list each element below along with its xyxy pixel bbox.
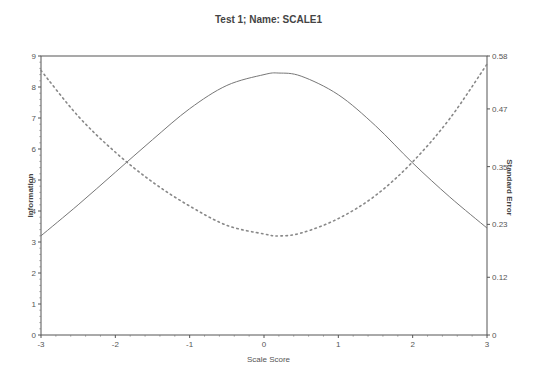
y-right-tick-label: 0.58 — [492, 52, 508, 61]
y-right-tick-label: 0.12 — [492, 273, 508, 282]
x-tick-label: 2 — [410, 340, 415, 349]
y-tick-label: 7 — [32, 114, 37, 123]
x-tick-label: 3 — [485, 340, 490, 349]
y-tick-label: 8 — [32, 83, 37, 92]
x-tick-label: 0 — [262, 340, 267, 349]
x-axis-title: Scale Score — [0, 355, 537, 364]
plot-frame — [41, 56, 487, 335]
y-axis-title: Information — [26, 173, 35, 217]
y-tick-label: 9 — [32, 52, 37, 61]
x-tick-label: -2 — [112, 340, 120, 349]
y-right-tick-label: 0.23 — [492, 220, 508, 229]
y-tick-label: 1 — [32, 300, 37, 309]
chart-plot: 012345678900.120.230.350.470.58-3-2-1012… — [0, 0, 537, 383]
y-right-tick-label: 0.47 — [492, 105, 508, 114]
y-right-axis-title: Standard Error — [505, 159, 514, 215]
y-right-tick-label: 0 — [492, 331, 497, 340]
y-tick-label: 3 — [32, 238, 37, 247]
y-tick-label: 6 — [32, 145, 37, 154]
x-tick-label: -1 — [186, 340, 194, 349]
y-tick-label: 2 — [32, 269, 37, 278]
x-tick-label: -3 — [37, 340, 45, 349]
y-tick-label: 0 — [32, 331, 37, 340]
x-tick-label: 1 — [336, 340, 341, 349]
standard-error-curve — [41, 64, 487, 236]
